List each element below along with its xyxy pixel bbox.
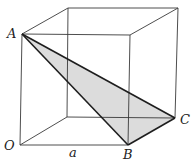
label-edge-length: a — [69, 145, 77, 160]
label-c-vertex: C — [180, 112, 190, 127]
cube-diagram: A O B C a — [0, 0, 191, 161]
label-a-vertex: A — [6, 26, 16, 41]
triangle-abc — [22, 34, 175, 145]
label-b-vertex: B — [122, 147, 133, 161]
label-o-vertex: O — [4, 138, 15, 153]
